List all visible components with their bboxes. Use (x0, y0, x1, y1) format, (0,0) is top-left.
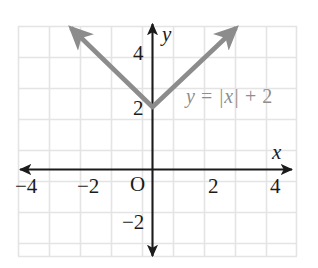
y-tick-label-neg2: −2 (122, 212, 144, 233)
grid-lines (18, 26, 297, 257)
equation-equals-sign: = (201, 85, 213, 107)
coordinate-plane-svg (0, 0, 318, 268)
equation-plus-sign: + (245, 85, 257, 107)
equation-constant: 2 (262, 85, 273, 107)
y-tick-label-pos4: 4 (133, 43, 144, 64)
equation-lhs: y (186, 85, 195, 107)
x-tick-label-neg4: −4 (15, 176, 37, 197)
x-tick-label-pos2: 2 (208, 176, 219, 197)
x-tick-label-neg2: −2 (77, 176, 99, 197)
origin-label: O (130, 174, 145, 195)
absolute-value-graph-figure: −4 −2 2 4 O 4 2 −2 x y y = |x| + 2 (0, 0, 318, 268)
y-axis-name-label: y (162, 24, 171, 45)
x-axis-name-label: x (272, 142, 281, 163)
equation-absolute-value-term: |x| (218, 85, 239, 107)
y-tick-label-pos2: 2 (133, 98, 144, 119)
x-tick-label-pos4: 4 (270, 176, 281, 197)
equation-label: y = |x| + 2 (186, 86, 273, 106)
